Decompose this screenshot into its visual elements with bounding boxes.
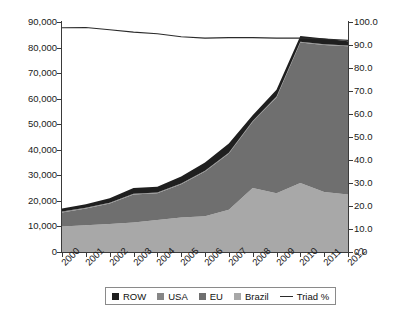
legend-item[interactable]: Brazil: [234, 291, 269, 302]
y-axis-right-tick: [349, 45, 353, 46]
y-axis-left-tick: [57, 73, 61, 74]
y-axis-right-tick: [349, 68, 353, 69]
legend-item-label: Brazil: [245, 291, 269, 302]
y-axis-right-labels: 100.090.080.070.060.050.040.030.020.010.…: [354, 0, 414, 320]
legend-item[interactable]: USA: [157, 291, 188, 302]
y-axis-left-tick-label: 90,000: [5, 17, 57, 26]
legend-item-label: USA: [168, 291, 188, 302]
y-axis-left-tick: [57, 48, 61, 49]
line-series-group: [62, 28, 348, 41]
y-axis-left-tick-label: 30,000: [5, 170, 57, 179]
y-axis-right-tick: [349, 229, 353, 230]
y-axis-right-tick-label: 10.0: [354, 224, 396, 233]
y-axis-left-line: [61, 21, 62, 253]
y-axis-right-tick-label: 60.0: [354, 109, 396, 118]
y-axis-right-tick: [349, 183, 353, 184]
chart-container: 90,00080,00070,00060,00050,00040,00030,0…: [0, 0, 414, 320]
legend-item-label: EU: [210, 291, 223, 302]
legend-item[interactable]: Triad %: [280, 291, 329, 302]
legend-square-icon: [234, 293, 241, 300]
y-axis-right-tick-label: 30.0: [354, 178, 396, 187]
y-axis-left-tick-label: 60,000: [5, 94, 57, 103]
legend-item-label: ROW: [123, 291, 146, 302]
y-axis-right-tick-label: 40.0: [354, 155, 396, 164]
y-axis-right-tick: [349, 114, 353, 115]
y-axis-right-tick-label: 80.0: [354, 63, 396, 72]
y-axis-left-tick-label: 20,000: [5, 196, 57, 205]
legend-item-label: Triad %: [297, 291, 329, 302]
y-axis-left-tick: [57, 99, 61, 100]
y-axis-left-tick: [57, 226, 61, 227]
y-axis-right-tick-label: 90.0: [354, 40, 396, 49]
y-axis-right-tick: [349, 137, 353, 138]
y-axis-left-tick: [57, 252, 61, 253]
y-axis-left-labels: 90,00080,00070,00060,00050,00040,00030,0…: [0, 0, 57, 320]
y-axis-left-tick-label: 80,000: [5, 43, 57, 52]
y-axis-left-tick: [57, 22, 61, 23]
y-axis-right-tick-label: 50.0: [354, 132, 396, 141]
legend-square-icon: [112, 293, 119, 300]
area-series-group: [62, 36, 348, 252]
y-axis-left-tick-label: 0: [5, 247, 57, 256]
legend-item[interactable]: EU: [199, 291, 223, 302]
y-axis-right-tick-label: 100.0: [354, 17, 396, 26]
y-axis-right-tick-label: 20.0: [354, 201, 396, 210]
y-axis-left-tick-label: 10,000: [5, 221, 57, 230]
y-axis-left-tick-label: 50,000: [5, 119, 57, 128]
y-axis-right-tick: [349, 22, 353, 23]
y-axis-left-tick: [57, 201, 61, 202]
legend-item[interactable]: ROW: [112, 291, 146, 302]
y-axis-left-tick: [57, 175, 61, 176]
y-axis-left-tick-label: 40,000: [5, 145, 57, 154]
line-triad-percent: [62, 28, 348, 41]
y-axis-right-tick: [349, 91, 353, 92]
y-axis-right-tick-label: 70.0: [354, 86, 396, 95]
chart-legend: ROWUSAEUBrazilTriad %: [105, 287, 336, 305]
legend-square-icon: [199, 293, 206, 300]
y-axis-right-tick: [349, 160, 353, 161]
y-axis-left-tick: [57, 150, 61, 151]
legend-square-icon: [157, 293, 164, 300]
y-axis-right-tick: [349, 206, 353, 207]
legend-line-icon: [280, 296, 293, 297]
y-axis-left-tick-label: 70,000: [5, 68, 57, 77]
chart-plot-svg: [62, 22, 348, 252]
y-axis-left-tick: [57, 124, 61, 125]
